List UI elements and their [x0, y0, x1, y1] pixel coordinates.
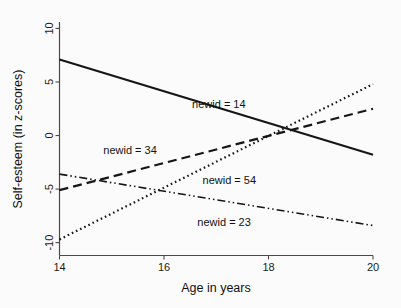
series-label-3: newid = 54: [203, 174, 257, 186]
x-axis-title: Age in years: [181, 281, 250, 295]
x-tick-label: 14: [53, 261, 65, 273]
y-tick-label: 5: [43, 79, 55, 85]
series-label-1: newid = 14: [192, 98, 246, 110]
series-label-4: newid = 23: [197, 216, 251, 228]
y-tick-label: 0: [43, 132, 55, 138]
x-tick-label: 18: [262, 261, 274, 273]
y-tick-label: 10: [43, 22, 55, 34]
x-tick-label: 16: [158, 261, 170, 273]
line-chart: 1050-5-10 14161820 newid = 14newid = 34n…: [0, 0, 401, 308]
x-tick-label: 20: [367, 261, 379, 273]
x-axis-ticks: 14161820: [53, 256, 379, 273]
chart-figure: 1050-5-10 14161820 newid = 14newid = 34n…: [0, 0, 401, 308]
series-label-2: newid = 34: [103, 144, 157, 156]
y-tick-label: -5: [43, 184, 55, 194]
y-axis-ticks: 1050-5-10: [43, 22, 59, 250]
y-tick-label: -10: [43, 235, 55, 251]
series-labels: newid = 14newid = 34newid = 54newid = 23: [103, 98, 256, 228]
y-axis-title: Self-esteem (in z-scores): [11, 70, 25, 209]
